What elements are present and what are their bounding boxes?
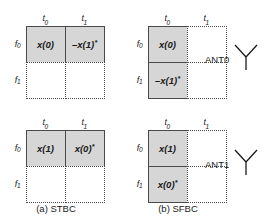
row-header-f0: f0 xyxy=(8,26,24,62)
antenna-label-ant0: ANT0 xyxy=(205,54,229,65)
cell-f0-t1: –x(1)* xyxy=(65,26,105,63)
row-headers-stbc-ant1: f0 f1 xyxy=(8,130,24,202)
grid-stbc-ant0: t0 t1 f0 f1 x(0) –x(1)* xyxy=(8,10,104,98)
cell-f0-t0: x(0) xyxy=(26,26,66,63)
cell-f1-t1 xyxy=(65,62,105,99)
caption-sfbc: (b) SFBC xyxy=(130,203,226,214)
resource-matrix-stbc-ant0: x(0) –x(1)* xyxy=(26,26,104,98)
column-header-t1: t1 xyxy=(187,10,226,26)
antenna-group-ant1: ANT1 xyxy=(205,148,259,180)
cell-f1-t1 xyxy=(65,166,105,203)
column-header-t1: t1 xyxy=(187,114,226,130)
cell-f0-t0: x(0) xyxy=(148,26,188,63)
column-headers-stbc-ant1: t0 t1 xyxy=(26,114,104,130)
column-header-t0: t0 xyxy=(26,114,65,130)
cell-f0-t0: x(1) xyxy=(148,130,188,167)
row-header-f0: f0 xyxy=(130,130,146,166)
column-headers-stbc-ant0: t0 t1 xyxy=(26,10,104,26)
antenna-label-ant1: ANT1 xyxy=(205,159,229,170)
column-header-t0: t0 xyxy=(148,114,187,130)
row-header-f1: f1 xyxy=(130,166,146,202)
row-headers-stbc-ant0: f0 f1 xyxy=(8,26,24,98)
antenna-icon xyxy=(233,148,259,180)
stbc-sfbc-mapping-figure: t0 t1 f0 f1 x(0) –x(1)* t0 t1 f0 f1 x(0)… xyxy=(0,0,266,224)
column-header-t1: t1 xyxy=(65,114,104,130)
cell-f1-t0 xyxy=(26,166,66,203)
cell-f1-t0 xyxy=(26,62,66,99)
row-header-f0: f0 xyxy=(130,26,146,62)
row-header-f1: f1 xyxy=(130,62,146,98)
cell-f1-t0: x(0)* xyxy=(148,166,188,203)
row-headers-sfbc-ant1: f0 f1 xyxy=(130,130,146,202)
cell-f0-t1: x(0)* xyxy=(65,130,105,167)
column-headers-sfbc-ant0: t0 t1 xyxy=(148,10,226,26)
row-header-f1: f1 xyxy=(8,166,24,202)
row-header-f0: f0 xyxy=(8,130,24,166)
grid-stbc-ant1: t0 t1 f0 f1 x(1) x(0)* xyxy=(8,114,104,202)
column-header-t0: t0 xyxy=(26,10,65,26)
cell-f1-t0: –x(1)* xyxy=(148,62,188,99)
column-headers-sfbc-ant1: t0 t1 xyxy=(148,114,226,130)
antenna-icon xyxy=(233,43,259,75)
column-header-t0: t0 xyxy=(148,10,187,26)
resource-matrix-stbc-ant1: x(1) x(0)* xyxy=(26,130,104,202)
row-header-f1: f1 xyxy=(8,62,24,98)
antenna-group-ant0: ANT0 xyxy=(205,43,259,75)
row-headers-sfbc-ant0: f0 f1 xyxy=(130,26,146,98)
cell-f0-t0: x(1) xyxy=(26,130,66,167)
column-header-t1: t1 xyxy=(65,10,104,26)
caption-stbc: (a) STBC xyxy=(8,203,104,214)
